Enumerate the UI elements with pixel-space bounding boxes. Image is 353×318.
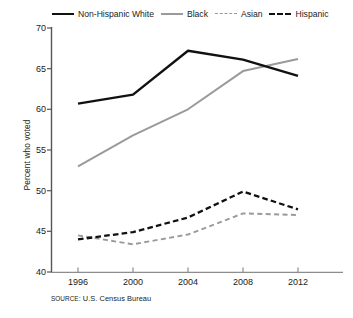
- chart-svg: [0, 0, 353, 318]
- series-line-black: [78, 59, 298, 166]
- x-tick-2012: 2012: [275, 277, 321, 287]
- x-tick-1996: 1996: [55, 277, 101, 287]
- x-tick-2000: 2000: [110, 277, 156, 287]
- series-line-hispanic: [78, 192, 298, 240]
- x-tick-2004: 2004: [165, 277, 211, 287]
- x-tick-2008: 2008: [220, 277, 266, 287]
- axis-lines: [52, 27, 344, 273]
- source-note: SOURCE: U.S. Census Bureau: [51, 294, 151, 303]
- chart-container: Non-Hispanic White Black Asian Hispanic …: [0, 0, 353, 318]
- series-line-non-hispanic-white: [78, 51, 298, 104]
- series-line-asian: [78, 213, 298, 244]
- source-text: : U.S. Census Bureau: [79, 294, 151, 303]
- x-axis-ticks: [78, 268, 298, 273]
- source-keyword: SOURCE: [51, 295, 79, 302]
